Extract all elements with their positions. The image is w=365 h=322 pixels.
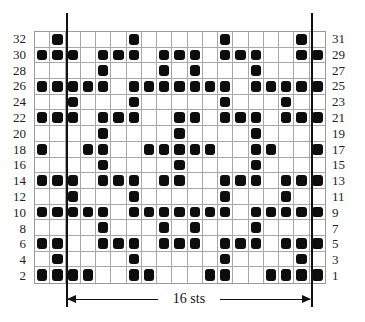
chart-cell-filled bbox=[203, 79, 218, 95]
chart-cell-empty bbox=[66, 126, 81, 142]
chart-cell-empty bbox=[218, 126, 233, 142]
chart-cell-empty bbox=[127, 142, 142, 158]
row-label-left: 32 bbox=[0, 32, 26, 45]
chart-cell-filled bbox=[35, 173, 50, 189]
chart-cell-filled bbox=[218, 267, 233, 283]
row-label-right: 25 bbox=[332, 79, 345, 92]
chart-cell-filled bbox=[96, 220, 111, 236]
chart-cell-filled bbox=[294, 252, 309, 268]
chart-cell-filled bbox=[35, 110, 50, 126]
chart-cell-filled bbox=[188, 110, 203, 126]
chart-cell-empty bbox=[50, 95, 65, 111]
chart-cell-empty bbox=[142, 95, 157, 111]
chart-cell-empty bbox=[279, 126, 294, 142]
chart-cell-filled bbox=[96, 48, 111, 64]
chart-cell-filled bbox=[142, 79, 157, 95]
chart-cell-filled bbox=[157, 220, 172, 236]
chart-cell-empty bbox=[264, 189, 279, 205]
chart-cell-empty bbox=[188, 95, 203, 111]
chart-cell-empty bbox=[66, 63, 81, 79]
row-label-left: 30 bbox=[0, 48, 26, 61]
chart-cell-filled bbox=[66, 95, 81, 111]
chart-cell-empty bbox=[264, 236, 279, 252]
chart-cell-filled bbox=[96, 126, 111, 142]
chart-cell-empty bbox=[264, 48, 279, 64]
chart-cell-empty bbox=[35, 63, 50, 79]
chart-cell-empty bbox=[111, 142, 126, 158]
chart-cell-empty bbox=[111, 95, 126, 111]
chart-cell-filled bbox=[203, 267, 218, 283]
chart-cell-empty bbox=[203, 252, 218, 268]
chart-cell-filled bbox=[188, 142, 203, 158]
chart-cell-filled bbox=[35, 236, 50, 252]
row-label-left: 26 bbox=[0, 79, 26, 92]
chart-cell-filled bbox=[127, 173, 142, 189]
row-label-right: 29 bbox=[332, 48, 345, 61]
chart-cell-empty bbox=[188, 173, 203, 189]
chart-cell-filled bbox=[172, 110, 187, 126]
chart-cell-filled bbox=[157, 142, 172, 158]
chart-cell-filled bbox=[35, 48, 50, 64]
chart-cell-empty bbox=[157, 95, 172, 111]
chart-cell-filled bbox=[35, 79, 50, 95]
chart-cell-empty bbox=[218, 142, 233, 158]
chart-cell-empty bbox=[279, 63, 294, 79]
chart-cell-empty bbox=[172, 220, 187, 236]
chart-cell-filled bbox=[66, 205, 81, 221]
row-label-right: 9 bbox=[332, 206, 339, 219]
chart-cell-empty bbox=[233, 220, 248, 236]
chart-cell-filled bbox=[111, 173, 126, 189]
chart-cell-empty bbox=[233, 267, 248, 283]
chart-cell-filled bbox=[157, 63, 172, 79]
chart-cell-empty bbox=[127, 158, 142, 174]
chart-cell-empty bbox=[35, 158, 50, 174]
chart-cell-filled bbox=[188, 236, 203, 252]
chart-cell-empty bbox=[188, 32, 203, 48]
chart-cell-filled bbox=[96, 63, 111, 79]
chart-cell-empty bbox=[249, 32, 264, 48]
chart-cell-filled bbox=[279, 110, 294, 126]
chart-cell-empty bbox=[142, 189, 157, 205]
chart-cell-empty bbox=[264, 126, 279, 142]
chart-cell-empty bbox=[249, 252, 264, 268]
chart-cell-empty bbox=[203, 220, 218, 236]
chart-cell-filled bbox=[35, 267, 50, 283]
chart-cell-filled bbox=[294, 205, 309, 221]
chart-cell-filled bbox=[111, 236, 126, 252]
chart-cell-empty bbox=[188, 252, 203, 268]
chart-cell-filled bbox=[96, 142, 111, 158]
chart-cell-filled bbox=[233, 110, 248, 126]
chart-cell-filled bbox=[96, 79, 111, 95]
chart-cell-empty bbox=[188, 189, 203, 205]
chart-cell-filled bbox=[233, 236, 248, 252]
chart-cell-empty bbox=[81, 126, 96, 142]
chart-cell-empty bbox=[264, 252, 279, 268]
chart-cell-empty bbox=[203, 95, 218, 111]
chart-cell-filled bbox=[294, 173, 309, 189]
chart-cell-filled bbox=[111, 110, 126, 126]
chart-cell-filled bbox=[249, 205, 264, 221]
chart-cell-empty bbox=[233, 126, 248, 142]
chart-cell-empty bbox=[172, 252, 187, 268]
row-label-left: 16 bbox=[0, 158, 26, 171]
chart-cell-empty bbox=[66, 158, 81, 174]
row-label-right: 1 bbox=[332, 269, 339, 282]
chart-cell-empty bbox=[81, 236, 96, 252]
chart-cell-empty bbox=[66, 236, 81, 252]
chart-cell-empty bbox=[81, 220, 96, 236]
chart-cell-empty bbox=[35, 189, 50, 205]
chart-cell-filled bbox=[50, 205, 65, 221]
row-label-right: 5 bbox=[332, 237, 339, 250]
row-label-left: 8 bbox=[0, 222, 26, 235]
chart-cell-empty bbox=[111, 63, 126, 79]
chart-cell-empty bbox=[35, 252, 50, 268]
chart-cell-empty bbox=[172, 95, 187, 111]
chart-cell-empty bbox=[142, 48, 157, 64]
chart-cell-filled bbox=[249, 173, 264, 189]
chart-cell-empty bbox=[127, 63, 142, 79]
chart-cell-empty bbox=[81, 158, 96, 174]
chart-cell-filled bbox=[35, 205, 50, 221]
chart-cell-empty bbox=[96, 189, 111, 205]
chart-cell-filled bbox=[50, 48, 65, 64]
chart-cell-empty bbox=[81, 252, 96, 268]
